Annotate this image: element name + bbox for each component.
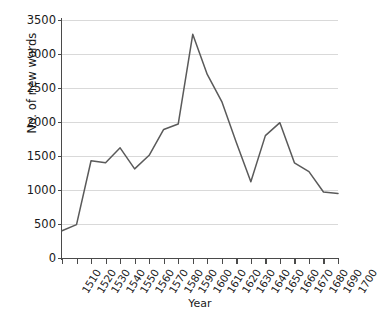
y-tick-label: 2500 <box>27 81 56 95</box>
plot-area: 0500100015002000250030003500 <box>62 20 338 258</box>
x-axis-ticks: 1510152015301540155015601570158015901600… <box>62 259 339 319</box>
x-tick-mark <box>338 259 339 264</box>
x-tick-mark <box>309 259 310 264</box>
y-tick-label: 0 <box>49 251 56 265</box>
x-tick-mark <box>120 259 121 264</box>
x-tick-mark <box>106 259 107 264</box>
x-axis-title: Year <box>62 297 338 310</box>
y-tick-label: 3000 <box>27 47 56 61</box>
y-tick-label: 2000 <box>27 115 56 129</box>
x-tick-mark <box>265 259 266 264</box>
series-line <box>62 20 338 258</box>
y-tick-label: 1500 <box>27 149 56 163</box>
y-tick-label: 1000 <box>27 183 56 197</box>
x-tick-mark <box>193 259 194 264</box>
x-tick-mark <box>62 259 63 264</box>
x-tick-mark <box>149 259 150 264</box>
x-tick-mark <box>294 259 295 264</box>
x-tick-mark <box>135 259 136 264</box>
x-tick-mark <box>251 259 252 264</box>
x-tick-mark <box>178 259 179 264</box>
x-tick-mark <box>236 259 237 264</box>
y-tick-label: 500 <box>34 217 56 231</box>
x-tick-mark <box>222 259 223 264</box>
x-tick-mark <box>280 259 281 264</box>
x-tick-mark <box>323 259 324 264</box>
x-tick-mark <box>207 259 208 264</box>
x-tick-mark <box>91 259 92 264</box>
y-tick-label: 3500 <box>27 13 56 27</box>
x-tick-mark <box>164 259 165 264</box>
x-tick-mark <box>77 259 78 264</box>
